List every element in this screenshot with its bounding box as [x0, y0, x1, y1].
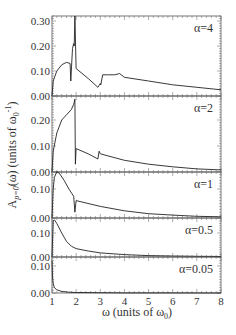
panel-label: α=1 — [194, 177, 213, 191]
y-axis-title: Ap=0(ω) (units of ω0-1) — [4, 102, 21, 209]
panel-2: 0.000.100.20α=2 — [31, 96, 221, 178]
x-tick-label: 1 — [49, 295, 55, 307]
panel-label: α=2 — [194, 101, 213, 115]
panel-4: 0.000.10α=0.5 — [31, 218, 221, 263]
chart: 0.000.100.200.30α=40.000.100.20α=20.000.… — [0, 0, 236, 335]
panel-3: 0.000.10α=1 — [31, 172, 221, 224]
y-tick-label: 0.30 — [31, 15, 51, 27]
panel-5: 0.000.10α=0.05 — [31, 257, 221, 299]
y-tick-label: 0.20 — [31, 40, 51, 52]
y-tick-label: 0.00 — [31, 287, 51, 299]
y-tick-label: 0.10 — [31, 140, 51, 152]
panel-label: α=0.05 — [179, 262, 213, 276]
y-tick-label: 0.10 — [31, 227, 51, 239]
x-tick-label: 7 — [194, 295, 200, 307]
y-tick-label: 0.20 — [31, 114, 51, 126]
y-tick-label: 0.10 — [31, 65, 51, 77]
x-tick-label: 8 — [218, 295, 224, 307]
x-tick-label: 2 — [73, 295, 79, 307]
y-tick-label: 0.00 — [31, 166, 51, 178]
y-tick-label: 0.10 — [31, 260, 51, 272]
y-tick-label: 0.10 — [31, 183, 51, 195]
panels: 0.000.100.200.30α=40.000.100.20α=20.000.… — [31, 15, 221, 299]
panel-1: 0.000.100.200.30α=4 — [31, 15, 221, 102]
y-tick-label: 0.00 — [31, 212, 51, 224]
x-axis-title: ω (units of ω0) — [102, 305, 172, 321]
panel-label: α=4 — [194, 21, 213, 35]
y-tick-label: 0.00 — [31, 90, 51, 102]
panel-label: α=0.5 — [185, 223, 213, 237]
